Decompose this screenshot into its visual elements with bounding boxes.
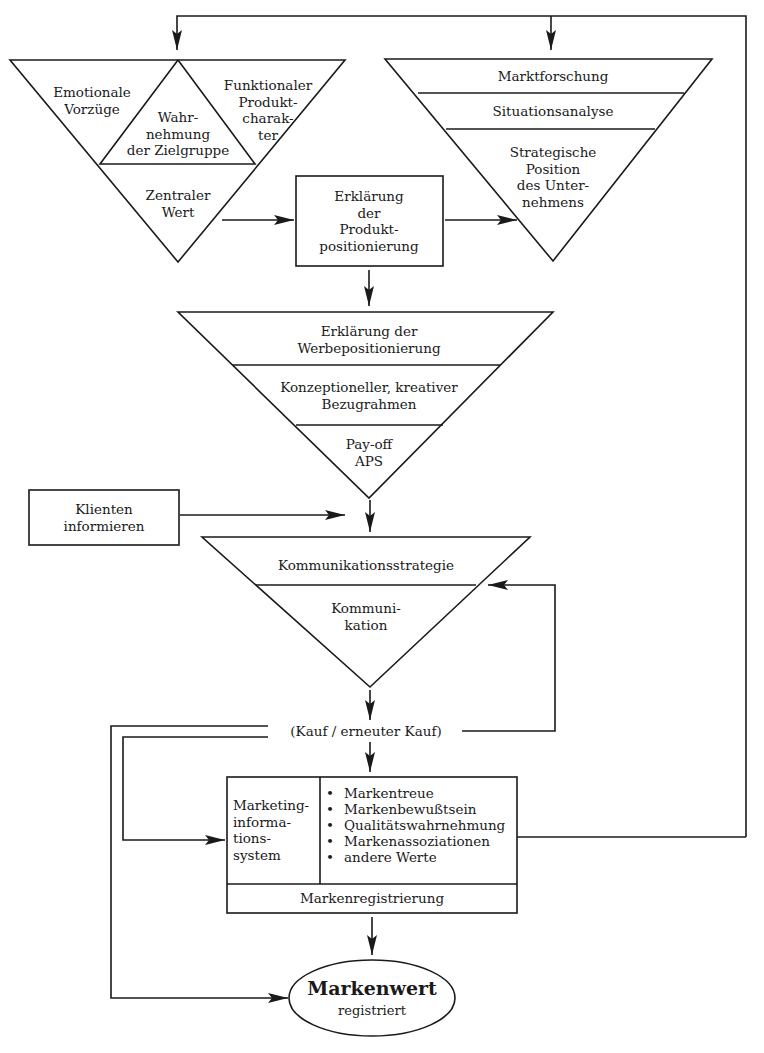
brand-value-list: Markentreue Markenbewußtsein Qualitätswa…: [322, 785, 505, 865]
label-zentraler-wert: Zentraler Wert: [146, 187, 211, 220]
label-markenregistrierung: Markenregistrierung: [300, 890, 444, 907]
label-produktpositionierung: Erklärung der Produkt- positionierung: [319, 188, 418, 254]
list-item: Markentreue: [322, 785, 505, 801]
label-marketinginformationssystem: Marketing- informa- tions- system: [233, 797, 309, 863]
label-strategische-position: Strategische Position des Unter- nehmens: [510, 144, 597, 210]
list-item: Markenbewußtsein: [322, 801, 505, 817]
label-kauf-erneuter-kauf: (Kauf / erneuter Kauf): [290, 723, 441, 740]
list-item: andere Werte: [322, 849, 505, 865]
label-bezugrahmen: Konzeptioneller, kreativer Bezugrahmen: [280, 379, 458, 412]
label-werbepositionierung: Erklärung der Werbepositionierung: [297, 323, 440, 356]
label-registriert: registriert: [338, 1003, 406, 1020]
list-item: Markenassoziationen: [322, 833, 505, 849]
label-kommunikation: Kommuni- kation: [331, 600, 401, 633]
label-markenwert: Markenwert: [307, 977, 437, 999]
label-kommunikationsstrategie: Kommunikationsstrategie: [278, 557, 454, 574]
list-item: Qualitätswahrnehmung: [322, 817, 505, 833]
label-emotionale-vorzuege: Emotionale Vorzüge: [53, 84, 131, 117]
label-funktionaler-produktcharakter: Funktionaler Produkt- charak- ter: [224, 77, 312, 143]
label-wahrnehmung-zielgruppe: Wahr- nehmung der Zielgruppe: [127, 109, 229, 159]
label-payoff-aps: Pay-off APS: [346, 436, 392, 469]
label-marktforschung: Marktforschung: [498, 68, 609, 85]
label-situationsanalyse: Situationsanalyse: [493, 103, 614, 120]
label-klienten-informieren: Klienten informieren: [64, 501, 145, 534]
brand-equity-flow-diagram: Emotionale Vorzüge Funktionaler Produkt-…: [0, 0, 764, 1053]
feedback-kauf-kommunikation: [462, 585, 555, 731]
